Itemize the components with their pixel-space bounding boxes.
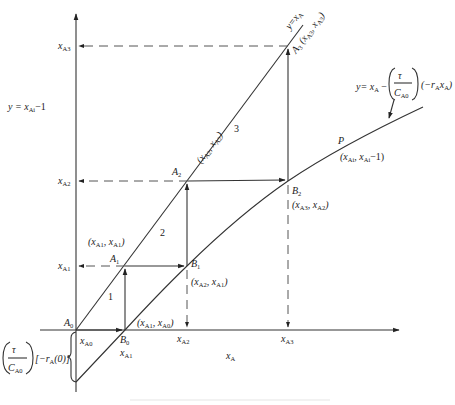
coord-A2: (xA2, xA2) — [194, 129, 226, 166]
coord-B0: (xA1, xA0) — [137, 317, 174, 329]
point-A0: A0 — [63, 317, 73, 329]
faded-caption — [130, 399, 330, 401]
stage-number-1: 1 — [108, 291, 113, 302]
x-tick-xA0: xA0 — [79, 335, 92, 347]
point-B2: B2 — [292, 185, 301, 197]
point-A1: A1 — [109, 253, 119, 265]
svg-text:τ: τ — [398, 70, 402, 81]
svg-text:τ: τ — [12, 344, 16, 355]
svg-text:(−rAxA): (−rAxA) — [421, 79, 453, 91]
curve-pointer-arrow — [389, 100, 394, 118]
point-B0: B0 — [120, 334, 129, 346]
point-P: P — [337, 135, 344, 146]
x-axis-label: xA — [225, 350, 235, 362]
y-tick-xA2: xA2 — [57, 175, 70, 187]
stage-number-2: 2 — [160, 227, 165, 238]
cstr-staging-diagram: y = xAi−1 xA3 xA2 xA1 xA0 xA1 xA2 xA3 xA… — [0, 0, 455, 405]
point-A2: A2 — [171, 166, 181, 178]
x-tick-xA2: xA2 — [176, 333, 189, 345]
svg-text:CA0: CA0 — [8, 362, 23, 374]
point-B1: B1 — [191, 258, 200, 270]
operating-line-y-equals-x — [76, 25, 303, 330]
coord-P: (xAi, xAi−1) — [340, 151, 384, 163]
x-tick-xA1: xA1 — [119, 347, 132, 359]
x-tick-xA3: xA3 — [280, 333, 293, 345]
step-A2-B2 — [188, 180, 285, 181]
svg-text:[−rA(0)]: [−rA(0)] — [35, 353, 70, 365]
y-tick-xA1: xA1 — [57, 260, 70, 272]
stage-number-3: 3 — [234, 123, 239, 134]
y-axis-label: y = xAi−1 — [7, 101, 46, 113]
operating-line-label: y=xA — [282, 8, 305, 32]
y-tick-xA3: xA3 — [57, 40, 70, 52]
coord-B1: (xA2, xA1) — [191, 276, 228, 288]
svg-text:y= xA −: y= xA − — [355, 81, 387, 93]
intercept-label: τ CA0 [−rA(0)] — [3, 342, 70, 374]
coord-B2: (xA3, xA2) — [292, 199, 329, 211]
reaction-curve-label: y= xA − τ CA0 (−rAxA) — [355, 68, 453, 100]
coord-A1: (xA1, xA1) — [88, 236, 125, 248]
svg-text:CA0: CA0 — [394, 87, 409, 99]
